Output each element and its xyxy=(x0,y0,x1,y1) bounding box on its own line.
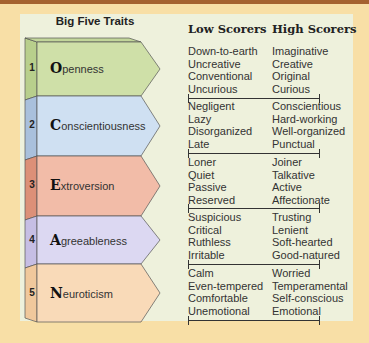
high-list-conscientiousness: ConscientiousHard-workingWell-organizedP… xyxy=(272,100,345,150)
high-list-openness: ImaginativeCreativeOriginalCurious xyxy=(272,45,328,95)
trait-name-neuroticism: Neuroticism xyxy=(50,285,113,301)
low-list-openness: Down-to-earthUncreativeConventionalUncur… xyxy=(188,45,258,95)
high-list-neuroticism: WorriedTemperamentalSelf-consciousEmotio… xyxy=(272,267,348,317)
trait-name-extroversion: Extroversion xyxy=(50,177,114,193)
low-list-neuroticism: CalmEven-temperedComfortableUnemotional xyxy=(188,267,263,317)
trait-name-agreeableness: Agreeableness xyxy=(50,232,127,248)
scale-line xyxy=(188,264,320,265)
high-list-agreeableness: TrustingLenientSoft-heartedGood-natured xyxy=(272,211,340,261)
low-list-extroversion: LonerQuietPassiveReserved xyxy=(188,156,235,206)
trait-name-conscientiousness: Conscientiousness xyxy=(50,117,146,133)
trait-number: 4 xyxy=(26,234,38,245)
trait-number: 3 xyxy=(26,179,38,190)
scale-line xyxy=(188,153,320,154)
scale-line xyxy=(188,208,320,209)
scale-line xyxy=(188,320,320,321)
high-list-extroversion: JoinerTalkativeActiveAffectionate xyxy=(272,156,330,206)
low-list-conscientiousness: NegligentLazyDisorganizedLate xyxy=(188,100,252,150)
trait-number: 5 xyxy=(26,287,38,298)
trait-number: 2 xyxy=(26,119,38,130)
trait-number: 1 xyxy=(26,62,38,73)
low-list-agreeableness: SuspiciousCriticalRuthlessIrritable xyxy=(188,211,241,261)
scale-line xyxy=(188,98,320,99)
trait-name-openness: Openness xyxy=(50,60,104,76)
